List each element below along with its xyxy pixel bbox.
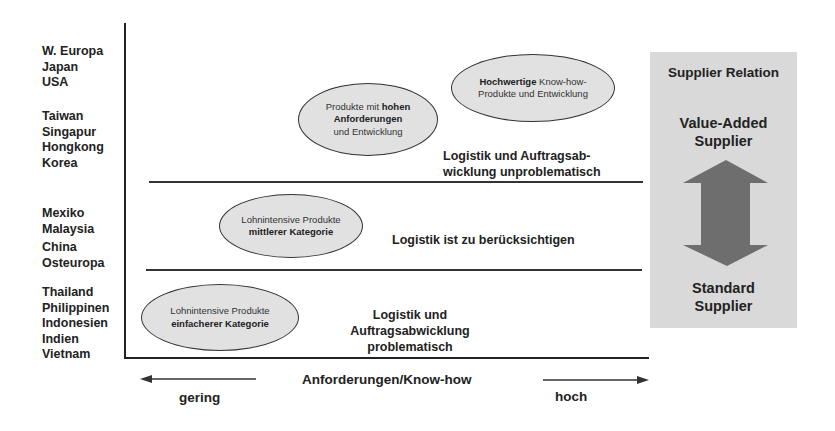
- x-axis-title: Anforderungen/Know-how: [302, 372, 471, 387]
- ellipse-text: Know-how-: [536, 76, 586, 87]
- logistics-line: problematisch: [312, 339, 508, 355]
- logistics-line: Logistik ist zu berücksichtigen: [392, 232, 575, 248]
- arrow-right-icon: [541, 374, 651, 386]
- country-label: Thailand: [42, 285, 109, 301]
- country-label: Osteuropa: [42, 256, 105, 272]
- arrow-left-icon: [138, 373, 258, 385]
- logistics-bottom-text: Logistik und Auftragsabwicklung problema…: [312, 307, 508, 355]
- country-label: Singapur: [42, 125, 104, 141]
- panel-label-line: Supplier: [650, 297, 797, 315]
- country-label: Indien: [42, 332, 109, 348]
- country-label: Indonesien: [42, 316, 109, 332]
- ellipse-text: Produkte und Entwicklung: [478, 88, 588, 101]
- separator-line-lower: [146, 269, 642, 271]
- supplier-relation-panel: Supplier Relation Value-Added Supplier S…: [650, 52, 797, 328]
- country-label: Vietnam: [42, 347, 109, 363]
- ellipse-text: Lohnintensive Produkte: [241, 214, 340, 227]
- separator-line-upper: [149, 181, 643, 183]
- country-label: Korea: [42, 156, 104, 172]
- panel-label-line: Standard: [650, 279, 797, 297]
- ellipse-text-bold: einfacherer Kategorie: [171, 318, 269, 329]
- country-label: USA: [42, 75, 103, 91]
- country-label: Hongkong: [42, 140, 104, 156]
- ellipse-simple-category-products: Lohnintensive Produkte einfacherer Kateg…: [141, 284, 299, 351]
- country-group-mid-a: Mexiko Malaysia: [42, 206, 94, 237]
- ellipse-text: Lohnintensive Produkte: [170, 305, 269, 318]
- ellipse-text: und Entwicklung: [333, 126, 402, 139]
- ellipse-text-bold: mittlerer Kategorie: [249, 226, 333, 237]
- logistics-line: Logistik und Auftragsabwicklung: [312, 307, 508, 339]
- y-axis-line: [124, 23, 126, 359]
- country-group-low: Thailand Philippinen Indonesien Indien V…: [42, 285, 109, 363]
- logistics-top-text: Logistik und Auftragsab- wicklung unprob…: [443, 148, 601, 180]
- ellipse-text-bold: Anforderungen: [334, 113, 403, 124]
- country-label: W. Europa: [42, 44, 103, 60]
- x-axis-high-label: hoch: [555, 389, 587, 404]
- country-group-upper-mid: Taiwan Singapur Hongkong Korea: [42, 109, 104, 171]
- country-group-high: W. Europa Japan USA: [42, 44, 103, 91]
- country-label: Philippinen: [42, 301, 109, 317]
- logistics-line: Logistik und Auftragsab-: [443, 148, 601, 164]
- x-axis-line: [124, 357, 649, 359]
- country-label: Japan: [42, 60, 103, 76]
- ellipse-text: Produkte mit: [326, 101, 382, 112]
- standard-supplier-label: Standard Supplier: [650, 279, 797, 315]
- logistics-middle-text: Logistik ist zu berücksichtigen: [392, 232, 575, 248]
- country-label: Mexiko: [42, 206, 94, 222]
- country-group-mid-b: China Osteuropa: [42, 240, 105, 271]
- ellipse-mid-category-products: Lohnintensive Produkte mittlerer Kategor…: [219, 194, 363, 258]
- country-label: Taiwan: [42, 109, 104, 125]
- ellipse-text-bold: hohen: [382, 101, 411, 112]
- country-label: Malaysia: [42, 222, 94, 238]
- country-label: China: [42, 240, 105, 256]
- logistics-line: wicklung unproblematisch: [443, 164, 601, 180]
- ellipse-text-bold: Hochwertige: [479, 76, 536, 87]
- ellipse-high-value-products: Hochwertige Know-how- Produkte und Entwi…: [451, 54, 615, 122]
- ellipse-high-requirement-products: Produkte mit hohen Anforderungen und Ent…: [298, 83, 438, 156]
- x-axis-low-label: gering: [179, 390, 220, 405]
